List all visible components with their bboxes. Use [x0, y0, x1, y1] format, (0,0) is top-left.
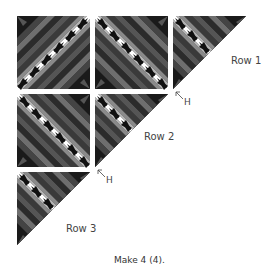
row-1	[17, 16, 246, 90]
caption: Make 4 (4).	[114, 255, 165, 265]
row2-block1	[17, 94, 90, 168]
row-1-label: Row 1	[231, 55, 261, 66]
h-marker-1: H	[184, 97, 191, 107]
h-arrow-icon	[176, 92, 183, 99]
row1-block1	[17, 16, 90, 90]
row1-block2	[95, 16, 168, 90]
row-2-label: Row 2	[144, 131, 174, 142]
row1-triangle	[173, 16, 246, 90]
row-3	[17, 172, 90, 246]
h-arrow-icon	[98, 170, 105, 177]
quilt-assembly-diagram	[0, 0, 270, 272]
row3-triangle	[17, 172, 90, 246]
h-marker-2: H	[106, 175, 113, 185]
row-3-label: Row 3	[66, 223, 96, 234]
